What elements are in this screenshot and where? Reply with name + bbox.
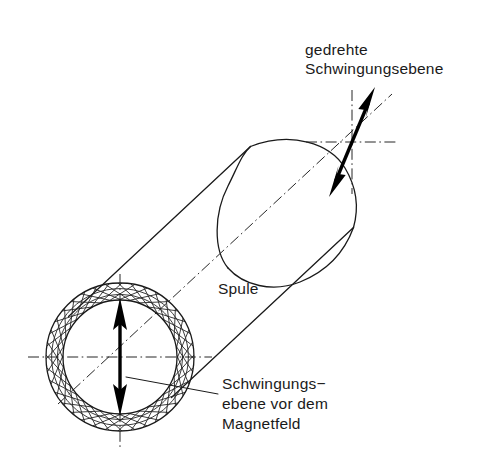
far-cap-ellipse [251, 140, 357, 228]
cylinder-lower-edge [172, 228, 354, 398]
label-rotated-plane: gedrehte Schwingungsebene [305, 41, 444, 77]
faraday-effect-diagram: gedrehte Schwingungsebene Spule Schwingu… [0, 0, 504, 475]
label-incident-plane: Schwingungs− ebene vor dem Magnetfeld [222, 375, 328, 432]
polarization-arrow-after-head-down [329, 166, 346, 198]
label-coil-line1: Spule [218, 280, 259, 297]
label-incident-plane-line2: ebene vor dem [222, 395, 328, 412]
drawing-layer: gedrehte Schwingungsebene Spule Schwingu… [28, 41, 444, 449]
label-incident-plane-line1: Schwingungs− [222, 375, 326, 392]
polarization-arrow-after-head-up [358, 87, 375, 119]
far-cap-ellipse-lower [228, 228, 354, 288]
label-rotated-plane-line1: gedrehte [305, 41, 368, 58]
label-coil: Spule [218, 280, 259, 297]
coil-cylinder-body [69, 147, 354, 398]
far-cap-ellipse-back [217, 147, 250, 269]
diagram-canvas: gedrehte Schwingungsebene Spule Schwingu… [0, 0, 504, 475]
cylinder-far-end-cap [217, 140, 356, 287]
label-incident-plane-line3: Magnetfeld [222, 415, 301, 432]
label-rotated-plane-line2: Schwingungsebene [305, 60, 444, 77]
